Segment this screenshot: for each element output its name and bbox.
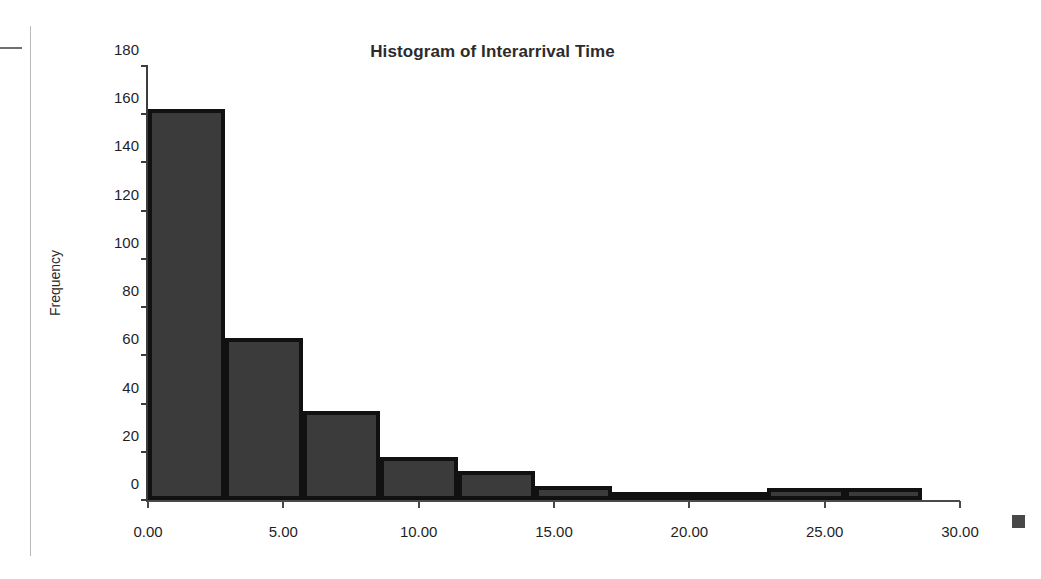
x-tick-label: 25.00 [806,523,844,540]
y-tick-label: 180 [114,41,139,58]
histogram-bar [380,457,457,500]
x-tick-mark [147,501,149,508]
histogram-bar [225,338,302,500]
y-tick-label: 40 [122,378,139,395]
x-tick-mark [553,501,555,508]
plot-area: 020406080100120140160180 0.005.0010.0015… [148,66,960,500]
histogram-bar [767,488,844,500]
y-tick-label: 20 [122,426,139,443]
histogram-bar [535,486,612,500]
chart-canvas: Histogram of Interarrival Time Frequency… [0,0,1041,579]
y-tick-label: 60 [122,330,139,347]
histogram-bar [458,471,535,500]
y-tick-mark [141,306,148,308]
y-tick-mark [141,451,148,453]
legend-swatch [1012,515,1025,528]
y-tick-mark [141,258,148,260]
histogram-bar [303,411,380,500]
y-tick-mark [141,113,148,115]
x-tick-label: 20.00 [671,523,709,540]
x-tick-mark [418,501,420,508]
x-tick-mark [824,501,826,508]
y-axis-title: Frequency [47,228,63,338]
y-tick-mark [141,161,148,163]
x-tick-label: 30.00 [941,523,979,540]
x-tick-label: 5.00 [269,523,298,540]
histogram-bar [690,492,767,500]
y-tick-label: 120 [114,185,139,202]
y-tick-mark [141,403,148,405]
y-tick-mark [141,354,148,356]
y-tick-label: 0 [131,475,139,492]
histogram-bar [845,488,922,500]
y-tick-mark [141,65,148,67]
x-tick-label: 0.00 [133,523,162,540]
y-tick-label: 80 [122,282,139,299]
chart-title: Histogram of Interarrival Time [0,42,985,62]
x-tick-mark [959,501,961,508]
y-tick-label: 160 [114,89,139,106]
scan-edge-artifact [30,26,31,556]
y-tick-label: 100 [114,233,139,250]
x-tick-mark [282,501,284,508]
x-tick-label: 10.00 [400,523,438,540]
x-tick-mark [688,501,690,508]
y-tick-mark [141,210,148,212]
x-tick-label: 15.00 [535,523,573,540]
histogram-bar [612,492,689,500]
histogram-bar [148,109,225,500]
y-tick-label: 140 [114,137,139,154]
